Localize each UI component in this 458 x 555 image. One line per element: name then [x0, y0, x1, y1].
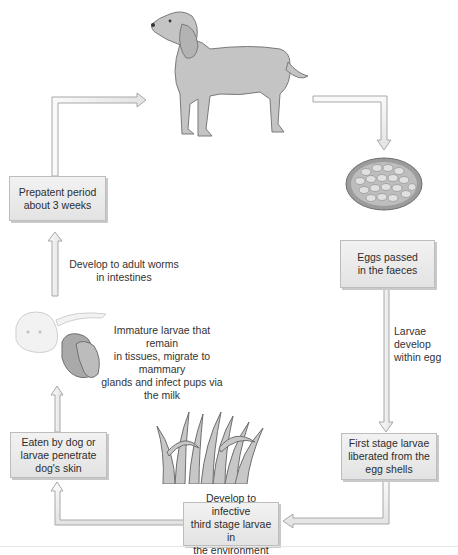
arrow-first-stage-to-infective — [283, 479, 389, 528]
annotation-larvae-develop: Larvae develop within egg — [394, 325, 458, 364]
life-cycle-diagram: Prepatent period about 3 weeks Eggs pass… — [0, 0, 458, 555]
annotation-immature-line-3: glands and infect pups via — [98, 376, 226, 389]
box-first-stage-line-2: liberated from the — [348, 450, 430, 463]
arrow-dog-to-egg — [313, 96, 391, 150]
box-eaten-line-2: larvae penetrate — [21, 449, 97, 462]
arrow-eggs-to-first-stage — [379, 288, 393, 432]
box-infective-line-2: third stage larvae in — [188, 518, 274, 544]
annotation-adult-line-1: Develop to adult worms — [64, 258, 184, 271]
annotation-larvae-line-2: within egg — [394, 351, 458, 364]
arrow-prepatent-to-dog — [52, 93, 146, 176]
box-prepatent-period: Prepatent period about 3 weeks — [9, 176, 106, 221]
box-eggs-line-2: in the faeces — [357, 264, 418, 277]
arrow-eaten-to-host — [51, 386, 63, 432]
box-prepatent-line-2: about 3 weeks — [19, 199, 97, 212]
annotation-adult-line-2: in intestines — [64, 271, 184, 284]
box-eaten-by-dog: Eaten by dog or larvae penetrate dog's s… — [10, 432, 107, 478]
annotation-immature-line-2: in tissues, migrate to mammary — [98, 350, 226, 376]
box-prepatent-line-1: Prepatent period — [19, 186, 97, 199]
box-first-stage-line-1: First stage larvae — [348, 437, 430, 450]
adult-dog-icon — [140, 4, 310, 144]
box-first-stage-line-3: egg shells — [348, 463, 430, 476]
bottom-divider — [0, 546, 458, 547]
box-eggs-line-1: Eggs passed — [357, 251, 418, 264]
annotation-immature-line-4: the milk — [98, 389, 226, 402]
arrow-adult-worms-to-prepatent — [48, 232, 62, 296]
box-eggs-passed: Eggs passed in the faeces — [340, 240, 435, 288]
annotation-immature-line-1: Immature larvae that remain — [98, 324, 226, 350]
box-first-stage-larvae: First stage larvae liberated from the eg… — [341, 433, 437, 480]
box-infective-line-1: Develop to infective — [188, 492, 274, 518]
annotation-adult-worms: Develop to adult worms in intestines — [64, 258, 184, 284]
box-eaten-line-3: dog's skin — [21, 462, 97, 475]
annotation-immature-larvae: Immature larvae that remain in tissues, … — [98, 324, 226, 402]
grass-icon — [155, 412, 265, 484]
box-infective-larvae: Develop to infective third stage larvae … — [183, 502, 279, 546]
egg-icon — [344, 154, 424, 214]
annotation-larvae-line-1: Larvae develop — [394, 325, 458, 351]
box-eaten-line-1: Eaten by dog or — [21, 436, 97, 449]
